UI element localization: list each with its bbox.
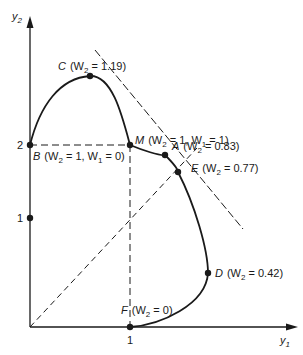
y-tick-1: 1: [17, 212, 23, 224]
label-d: D(W2 = 0.42): [215, 267, 283, 282]
label-c: C(W2 = 1.19): [58, 60, 126, 75]
point-d: [205, 270, 211, 276]
point-m: [127, 142, 133, 148]
label-b: B(W2 = 1, W1 = 0): [33, 150, 125, 165]
tick-y-1: [27, 215, 33, 221]
x-axis-arrow-icon: [286, 324, 298, 331]
label-e: E(W2 = 0.77): [191, 162, 258, 177]
y-tick-2: 2: [17, 139, 23, 151]
point-f: [127, 324, 133, 330]
dashed-diagonal-line: [30, 148, 197, 327]
x-tick-1: 1: [127, 334, 133, 346]
y-axis-label: y2: [11, 10, 23, 25]
diagram-canvas: y2 y1 2 1 1 C(W2 = 1.19) M(W2 = 1, W1 = …: [0, 0, 303, 355]
trade-off-curve: [30, 76, 208, 327]
x-axis-label: y1: [279, 334, 290, 349]
y-axis-arrow-icon: [27, 16, 34, 28]
point-e: [175, 169, 181, 175]
point-a: [162, 152, 168, 158]
point-b: [27, 142, 33, 148]
label-f: F(W2 = 0): [121, 304, 173, 319]
